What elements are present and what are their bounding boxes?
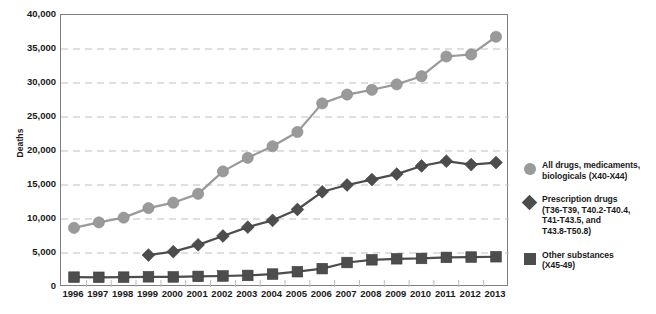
series-square <box>69 251 502 282</box>
data-point-diamond <box>192 238 205 251</box>
legend-item-label: Prescription drugs (T36-T39, T40.2-T40.4… <box>542 194 630 236</box>
data-point-circle <box>168 197 179 208</box>
data-point-diamond <box>167 245 180 258</box>
plot-area <box>60 14 508 286</box>
data-point-diamond <box>266 214 279 227</box>
data-point-circle <box>193 188 204 199</box>
legend-square-icon <box>522 251 542 267</box>
y-axis-tick-labels: 05,00010,00015,00020,00025,00030,00035,0… <box>0 0 56 314</box>
data-point-square <box>69 272 80 283</box>
data-point-circle <box>391 79 402 90</box>
data-point-square <box>292 266 303 277</box>
data-point-diamond <box>365 173 378 186</box>
data-point-square <box>118 272 129 283</box>
data-point-circle <box>143 203 154 214</box>
legend-diamond-icon <box>522 195 542 211</box>
data-point-diamond <box>217 230 230 243</box>
x-tick-label: 2013 <box>475 288 515 299</box>
data-point-square <box>391 253 402 264</box>
y-tick-label: 20,000 <box>8 145 56 155</box>
data-point-circle <box>466 49 477 60</box>
data-point-circle <box>317 98 328 109</box>
legend-item: All drugs, medicaments, biologicals (X40… <box>522 160 656 181</box>
legend-circle-icon <box>522 161 542 177</box>
data-point-diamond <box>465 158 478 171</box>
data-point-circle <box>68 222 79 233</box>
data-point-square <box>367 255 378 266</box>
data-point-diamond <box>390 168 403 181</box>
legend-item: Other substances (X45-49) <box>522 250 656 271</box>
data-point-square <box>342 257 353 268</box>
data-point-square <box>218 271 229 282</box>
x-axis-tick-labels: 1996199719981999200020012002200320042005… <box>60 288 508 304</box>
data-point-square <box>193 271 204 282</box>
y-tick-label: 10,000 <box>8 213 56 223</box>
y-tick-label: 30,000 <box>8 77 56 87</box>
y-tick-label: 25,000 <box>8 111 56 121</box>
data-point-circle <box>217 166 228 177</box>
series-diamond <box>142 155 502 262</box>
data-point-circle <box>416 71 427 82</box>
y-tick-label: 0 <box>8 281 56 291</box>
data-point-diamond <box>341 179 354 192</box>
data-point-circle <box>118 212 129 223</box>
data-point-diamond <box>490 156 503 169</box>
data-point-square <box>416 253 427 264</box>
series-line <box>74 257 496 278</box>
plot-svg <box>61 15 509 287</box>
y-tick-label: 35,000 <box>8 43 56 53</box>
data-point-circle <box>441 51 452 62</box>
chart-figure: Deaths 05,00010,00015,00020,00025,00030,… <box>0 0 656 314</box>
y-tick-label: 40,000 <box>8 9 56 19</box>
legend-item-label: Other substances (X45-49) <box>542 250 614 271</box>
series-circle <box>68 31 501 233</box>
square-icon <box>524 253 536 265</box>
data-point-square <box>466 252 477 263</box>
chart-legend: All drugs, medicaments, biologicals (X40… <box>522 160 656 284</box>
data-point-square <box>242 270 253 281</box>
legend-item-label: All drugs, medicaments, biologicals (X40… <box>542 160 640 181</box>
data-point-diamond <box>241 221 254 234</box>
data-point-square <box>491 251 502 262</box>
circle-icon <box>524 163 536 175</box>
data-point-square <box>317 263 328 274</box>
data-point-circle <box>267 141 278 152</box>
data-point-square <box>94 272 105 283</box>
y-tick-label: 5,000 <box>8 247 56 257</box>
data-point-square <box>168 272 179 283</box>
data-point-diamond <box>440 155 453 168</box>
legend-item: Prescription drugs (T36-T39, T40.2-T40.4… <box>522 194 656 236</box>
data-point-circle <box>292 126 303 137</box>
data-point-diamond <box>415 160 428 173</box>
data-point-square <box>143 272 154 283</box>
data-point-circle <box>490 31 501 42</box>
series-line <box>74 37 496 228</box>
data-point-circle <box>341 89 352 100</box>
data-point-circle <box>242 152 253 163</box>
data-point-square <box>267 269 278 280</box>
y-tick-label: 15,000 <box>8 179 56 189</box>
data-point-diamond <box>142 249 155 262</box>
data-point-square <box>441 252 452 263</box>
data-point-circle <box>366 84 377 95</box>
diamond-icon <box>522 195 538 211</box>
data-point-circle <box>93 217 104 228</box>
